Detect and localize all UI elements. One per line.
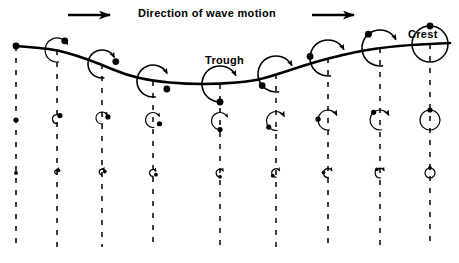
diagram-canvas <box>0 0 459 263</box>
particle-dot-middle <box>57 113 62 118</box>
particle-dot-bottom <box>375 167 379 171</box>
particle-dot-middle <box>13 117 18 122</box>
particle-dot-middle <box>105 114 110 119</box>
particle-dot-middle <box>427 107 432 112</box>
particle-dot-middle <box>315 117 320 122</box>
water-particle-dot-group <box>13 23 434 179</box>
particle-dot-middle <box>266 125 271 130</box>
particle-dot-bottom <box>154 173 158 177</box>
particle-dot-bottom <box>271 174 275 178</box>
particle-dot-middle <box>157 121 162 126</box>
wave-motion-diagram: Direction of wave motion Crest Trough <box>0 0 459 263</box>
diagram-title: Direction of wave motion <box>138 7 276 19</box>
vertical-dashed-line-group <box>16 44 430 247</box>
particle-dot-middle <box>371 110 376 115</box>
trough-label: Trough <box>205 54 244 66</box>
particle-dot-middle <box>217 127 222 132</box>
particle-dot-top <box>307 53 314 60</box>
particle-dot-top <box>61 37 68 44</box>
particle-dot-bottom <box>322 171 326 175</box>
particle-dot-bottom <box>57 168 61 172</box>
particle-dot-top <box>13 43 20 50</box>
orbital-circle-group <box>45 26 448 178</box>
crest-label: Crest <box>408 28 438 40</box>
particle-dot-top <box>112 58 119 65</box>
particle-dot-bottom <box>14 171 18 175</box>
particle-dot-bottom <box>428 166 432 170</box>
particle-dot-bottom <box>218 175 222 179</box>
particle-dot-top <box>259 82 266 89</box>
particle-dot-bottom <box>103 170 107 174</box>
particle-dot-top <box>163 86 170 93</box>
particle-dot-top <box>365 31 372 38</box>
particle-dot-top <box>217 99 224 106</box>
